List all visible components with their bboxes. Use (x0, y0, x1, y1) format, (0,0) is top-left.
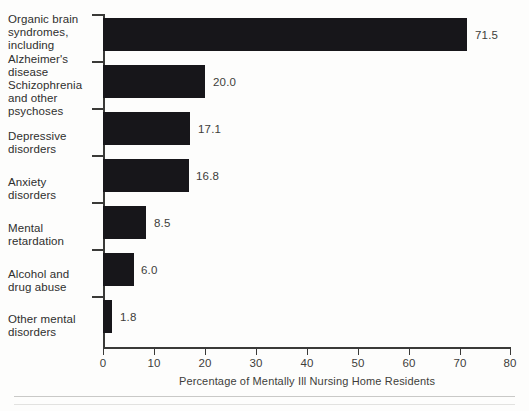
category-tick (92, 61, 103, 63)
x-axis-tick-label: 80 (503, 357, 516, 369)
x-axis-tick-label: 10 (147, 357, 160, 369)
category-label-line: disorders (8, 143, 100, 156)
x-axis-tick (103, 348, 104, 355)
category-label-line: Schizophrenia (8, 79, 100, 92)
category-label-line: retardation (8, 235, 100, 248)
bar-value-label: 16.8 (196, 170, 219, 182)
category-label-schizophrenia: Schizophrenia and other psychoses (8, 79, 100, 119)
category-label-line: including (8, 39, 100, 52)
x-axis-tick-label: 70 (453, 357, 466, 369)
category-label-line: and other (8, 92, 100, 105)
category-label-other-mental-disorders: Other mental disorders (8, 313, 100, 339)
category-label-line: drug abuse (8, 281, 100, 294)
category-label-line: Other mental (8, 313, 100, 326)
category-label-line: syndromes, (8, 26, 100, 39)
category-label-organic-brain-syndromes: Organic brain syndromes, including Alzhe… (8, 13, 100, 79)
category-label-line: disease (8, 66, 100, 79)
x-axis-tick-label: 0 (100, 357, 107, 369)
bar-value-label: 6.0 (141, 264, 158, 276)
bar-alcohol-drug-abuse[interactable] (103, 253, 134, 286)
category-label-line: Anxiety (8, 176, 100, 189)
category-label-anxiety-disorders: Anxiety disorders (8, 176, 100, 202)
x-axis-tick-label: 30 (249, 357, 262, 369)
x-axis-tick (510, 348, 511, 355)
category-label-alcohol-drug-abuse: Alcohol and drug abuse (8, 268, 100, 294)
x-axis-tick-label: 50 (351, 357, 364, 369)
page-divider (14, 404, 515, 405)
category-label-line: disorders (8, 326, 100, 339)
category-label-depressive-disorders: Depressive disorders (8, 130, 100, 156)
bar-organic-brain-syndromes[interactable] (103, 18, 467, 51)
x-axis-tick (256, 348, 257, 355)
bar-mental-retardation[interactable] (103, 206, 146, 239)
category-tick (92, 249, 103, 251)
page-divider (14, 396, 515, 397)
x-axis-tick (358, 348, 359, 355)
category-label-line: Alcohol and (8, 268, 100, 281)
category-label-line: disorders (8, 189, 100, 202)
x-axis-tick (154, 348, 155, 355)
category-tick (92, 202, 103, 204)
bar-value-label: 1.8 (120, 311, 137, 323)
category-label-line: Organic brain (8, 13, 100, 26)
bar-value-label: 8.5 (154, 217, 171, 229)
bar-schizophrenia[interactable] (103, 65, 205, 98)
x-axis-tick-label: 40 (300, 357, 313, 369)
category-axis-labels: Organic brain syndromes, including Alzhe… (8, 0, 100, 411)
category-tick (92, 296, 103, 298)
x-axis-tick (409, 348, 410, 355)
x-axis-tick-label: 60 (402, 357, 415, 369)
bar-anxiety-disorders[interactable] (103, 159, 189, 192)
x-axis-tick-label: 20 (198, 357, 211, 369)
category-tick (92, 14, 103, 16)
bar-other-mental-disorders[interactable] (103, 300, 112, 333)
category-label-mental-retardation: Mental retardation (8, 222, 100, 248)
x-axis-tick (205, 348, 206, 355)
category-label-line: Depressive (8, 130, 100, 143)
category-tick (92, 108, 103, 110)
bar-depressive-disorders[interactable] (103, 112, 190, 145)
x-axis-title: Percentage of Mentally Ill Nursing Home … (103, 375, 511, 387)
x-axis-tick (307, 348, 308, 355)
chart-page: Organic brain syndromes, including Alzhe… (0, 0, 529, 411)
category-tick (92, 155, 103, 157)
bar-value-label: 71.5 (475, 29, 498, 41)
category-label-line: psychoses (8, 105, 100, 118)
category-label-line: Alzheimer's (8, 53, 100, 66)
x-axis-tick (460, 348, 461, 355)
plot-area: 71.5 20.0 17.1 16.8 8.5 6.0 1.8 (103, 14, 510, 348)
category-label-line: Mental (8, 222, 100, 235)
bar-value-label: 17.1 (198, 123, 221, 135)
bar-value-label: 20.0 (213, 76, 236, 88)
